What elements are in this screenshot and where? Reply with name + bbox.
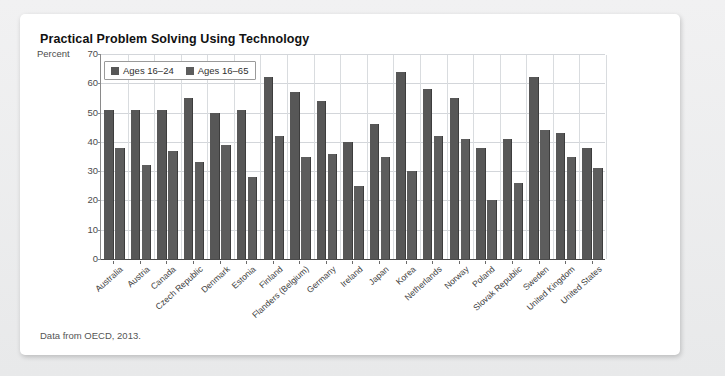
bar-series-2[interactable] <box>354 186 364 259</box>
bar-series-1[interactable] <box>529 77 539 259</box>
y-axis-tick-label: 70 <box>76 48 98 59</box>
y-axis-unit-label: Percent <box>37 48 70 59</box>
bar-series-2[interactable] <box>407 171 417 259</box>
y-axis-tick-labels: 010203040506070 <box>72 55 98 260</box>
x-axis-tick-label: Norway <box>442 264 470 291</box>
bar-series-1[interactable] <box>450 98 460 259</box>
bar-series-2[interactable] <box>195 162 205 259</box>
category-separator <box>606 55 607 259</box>
y-axis-tick <box>98 259 101 260</box>
x-axis-tick <box>512 261 513 264</box>
plot-area <box>100 55 605 260</box>
bar-series-1[interactable] <box>503 139 513 259</box>
bar-series-2[interactable] <box>142 165 152 259</box>
y-axis-tick-label: 40 <box>76 136 98 147</box>
x-axis-tick <box>326 261 327 264</box>
bar-series-2[interactable] <box>593 168 603 259</box>
bar-series-2[interactable] <box>221 145 231 259</box>
legend-item[interactable]: Ages 16–65 <box>186 65 249 76</box>
category-separator <box>181 55 182 259</box>
bar-series-1[interactable] <box>237 110 247 259</box>
bar-series-2[interactable] <box>540 130 550 259</box>
x-axis-tick <box>220 261 221 264</box>
y-axis-tick-label: 10 <box>76 224 98 235</box>
x-axis-tick <box>459 261 460 264</box>
bar-series-2[interactable] <box>461 139 471 259</box>
category-separator <box>234 55 235 259</box>
bar-series-1[interactable] <box>396 72 406 259</box>
bar-series-1[interactable] <box>582 148 592 259</box>
bar-series-2[interactable] <box>487 200 497 259</box>
bar-series-1[interactable] <box>290 92 300 259</box>
y-axis-tick <box>98 200 101 201</box>
bar-series-1[interactable] <box>343 142 353 259</box>
y-axis-tick-label: 50 <box>76 107 98 118</box>
category-separator <box>128 55 129 259</box>
category-separator <box>393 55 394 259</box>
x-axis-tick-label: Denmark <box>199 264 232 295</box>
bar-series-1[interactable] <box>476 148 486 259</box>
chart-legend: Ages 16–24 Ages 16–65 <box>104 61 256 80</box>
category-separator <box>526 55 527 259</box>
legend-label: Ages 16–65 <box>198 65 249 76</box>
chart-card: Practical Problem Solving Using Technolo… <box>20 14 680 355</box>
legend-label: Ages 16–24 <box>123 65 174 76</box>
x-axis-tick-label: Slovak Republic <box>471 264 523 313</box>
y-axis-tick-label: 0 <box>76 253 98 264</box>
bar-series-1[interactable] <box>157 110 167 259</box>
bar-series-2[interactable] <box>275 136 285 259</box>
gridline <box>101 54 605 55</box>
bar-series-1[interactable] <box>104 110 114 259</box>
x-axis-tick <box>299 261 300 264</box>
bar-series-2[interactable] <box>248 177 258 259</box>
x-axis-tick <box>539 261 540 264</box>
category-separator <box>447 55 448 259</box>
y-axis-tick <box>98 171 101 172</box>
bar-series-2[interactable] <box>567 157 577 260</box>
x-axis-tick <box>406 261 407 264</box>
x-axis-tick <box>113 261 114 264</box>
category-separator <box>553 55 554 259</box>
legend-item[interactable]: Ages 16–24 <box>111 65 174 76</box>
bar-series-2[interactable] <box>434 136 444 259</box>
y-axis-tick <box>98 54 101 55</box>
category-separator <box>154 55 155 259</box>
bar-series-2[interactable] <box>168 151 178 259</box>
bar-series-2[interactable] <box>514 183 524 259</box>
bar-series-2[interactable] <box>301 157 311 260</box>
x-axis-tick <box>140 261 141 264</box>
y-axis-tick-label: 60 <box>76 77 98 88</box>
bar-series-1[interactable] <box>184 98 194 259</box>
bar-series-1[interactable] <box>370 124 380 259</box>
page-title: Practical Problem Solving Using Technolo… <box>40 32 309 46</box>
category-separator <box>500 55 501 259</box>
bar-series-2[interactable] <box>381 157 391 260</box>
category-separator <box>287 55 288 259</box>
bar-series-1[interactable] <box>317 101 327 259</box>
category-separator <box>207 55 208 259</box>
category-separator <box>260 55 261 259</box>
x-axis-tick <box>352 261 353 264</box>
y-axis-tick <box>98 142 101 143</box>
y-axis-tick <box>98 113 101 114</box>
bar-series-2[interactable] <box>115 148 125 259</box>
x-axis-tick <box>485 261 486 264</box>
category-separator <box>340 55 341 259</box>
bar-series-2[interactable] <box>328 154 338 259</box>
legend-swatch-icon <box>186 67 194 75</box>
bar-series-1[interactable] <box>131 110 141 259</box>
y-axis-tick-label: 20 <box>76 194 98 205</box>
bar-series-1[interactable] <box>423 89 433 259</box>
x-axis-tick <box>246 261 247 264</box>
category-separator <box>579 55 580 259</box>
bar-series-1[interactable] <box>210 113 220 259</box>
y-axis-tick <box>98 83 101 84</box>
bar-series-1[interactable] <box>556 133 566 259</box>
page-background: Practical Problem Solving Using Technolo… <box>0 0 725 376</box>
bar-series-1[interactable] <box>264 77 274 259</box>
x-axis-tick-labels: AustraliaAustriaCanadaCzech RepublicDenm… <box>100 261 605 331</box>
legend-swatch-icon <box>111 67 119 75</box>
category-separator <box>314 55 315 259</box>
x-axis-tick <box>273 261 274 264</box>
x-axis-tick-label: Estonia <box>230 264 258 291</box>
